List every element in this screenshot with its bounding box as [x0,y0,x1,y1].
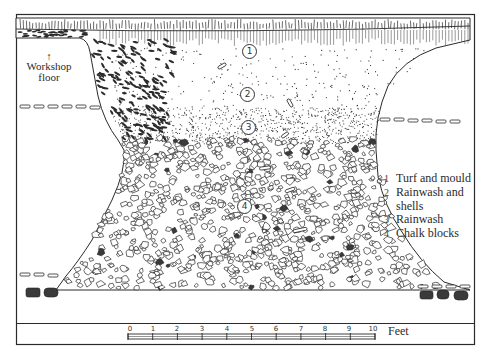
legend-item-2-continuation: shells [384,200,471,212]
section-diagram: 1 2 3 4 ↑ Workshop floor 1 Turf and moul… [0,0,490,361]
workshop-label-line2: floor [38,71,59,83]
scale-bar [128,333,375,340]
scale-tick-10: 10 [369,325,378,333]
layer-marker-2: 2 [240,87,255,102]
scale-tick-0: 0 [128,325,132,333]
scale-tick-8: 8 [323,325,327,333]
scale-tick-4: 4 [225,325,229,333]
legend: 1 Turf and mould 2 Rainwash and shells 3… [384,172,471,241]
scale-tick-6: 6 [274,325,278,333]
legend-item-2: 2 Rainwash and [384,186,471,199]
scale-tick-5: 5 [250,325,254,333]
legend-item-4: 4 Chalk blocks [384,227,471,240]
layer-marker-1: 1 [242,44,257,59]
layer-marker-3: 3 [241,120,256,135]
scale-unit-label: Feet [388,325,409,337]
scale-tick-3: 3 [200,325,204,333]
scale-tick-9: 9 [347,325,351,333]
scale-tick-2: 2 [175,325,179,333]
layer-marker-4: 4 [237,199,252,214]
scale-tick-7: 7 [299,325,303,333]
workshop-floor-annotation: ↑ Workshop floor [24,52,74,83]
legend-item-3: 3 Rainwash [384,213,471,226]
scale-tick-1: 1 [151,325,155,333]
legend-item-1: 1 Turf and mould [384,172,471,185]
